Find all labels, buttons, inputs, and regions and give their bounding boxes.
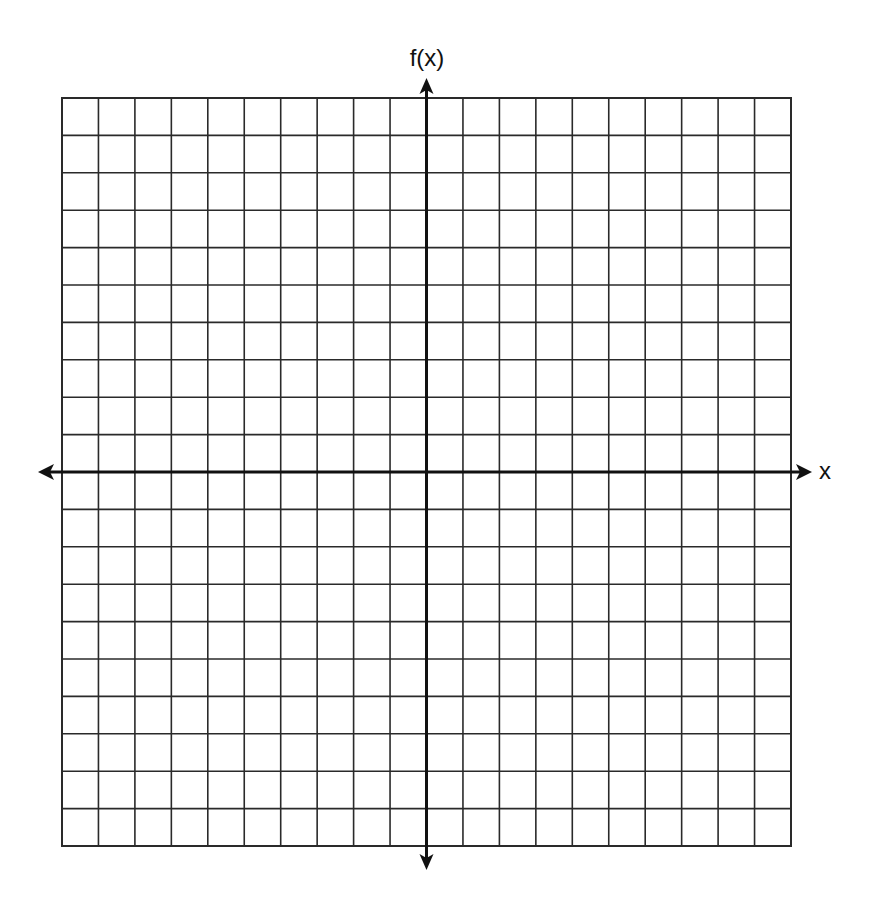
y-axis-label: f(x)	[410, 44, 445, 71]
x-axis-label: x	[819, 457, 831, 484]
coordinate-grid: f(x) x	[0, 0, 872, 917]
axes	[38, 78, 812, 870]
